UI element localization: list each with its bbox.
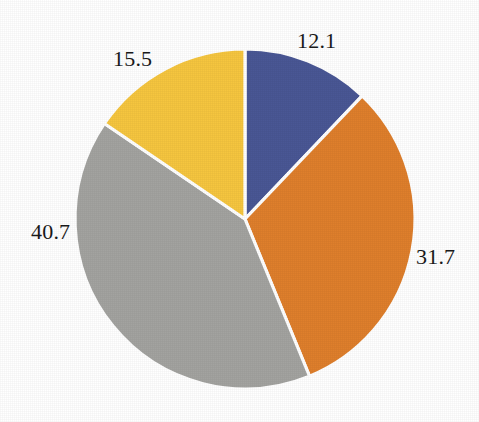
pie-chart-figure: 12.1 31.7 40.7 15.5 xyxy=(0,0,479,422)
pie-slice-group xyxy=(75,49,415,389)
pie-slice-label-4: 15.5 xyxy=(113,48,152,70)
pie-chart-canvas xyxy=(0,0,479,422)
pie-slice-label-1: 12.1 xyxy=(297,30,336,52)
pie-slice-label-2: 31.7 xyxy=(416,246,455,268)
pie-slice-label-3: 40.7 xyxy=(31,221,70,243)
